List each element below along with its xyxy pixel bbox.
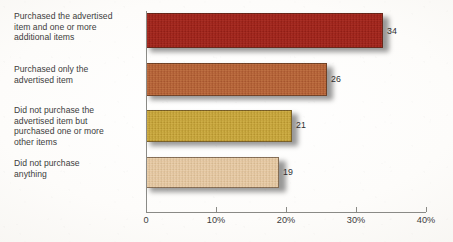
category-label-4: Did not purchase anything [14,158,146,179]
x-axis-tick-10 [216,207,217,212]
x-axis-tick-0 [146,207,147,212]
category-label-1: Purchased the advertised item and one or… [14,11,146,43]
bar-4 [146,157,279,188]
y-axis-line [146,11,147,213]
x-axis-tick-40 [426,207,427,212]
bar-1 [146,13,383,48]
bar-3 [146,110,292,142]
category-label-2: Purchased only the advertised item [14,64,146,85]
x-axis-tick-30 [356,207,357,212]
category-label-3: Did not purchase the advertised item but… [14,105,146,147]
x-axis-label-0: 0 [136,215,156,226]
bar-chart: Purchased the advertised item and one or… [0,0,453,242]
x-axis-label-40: 40% [409,215,443,226]
x-axis-label-20: 20% [269,215,303,226]
value-label-1: 34 [387,26,397,36]
x-axis-line [146,212,426,213]
value-label-2: 26 [331,74,341,84]
bar-2 [146,63,327,96]
value-label-4: 19 [283,167,293,177]
x-axis-label-30: 30% [339,215,373,226]
value-label-3: 21 [296,120,306,130]
x-axis-tick-20 [286,207,287,212]
x-axis-label-10: 10% [199,215,233,226]
